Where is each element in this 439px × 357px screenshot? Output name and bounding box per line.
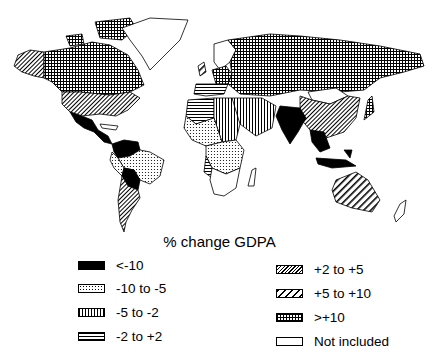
region-australia bbox=[332, 172, 380, 212]
legend-item-minus2-to-plus2: -2 to +2 bbox=[78, 329, 162, 343]
legend-item-lt-minus10: <-10 bbox=[78, 258, 143, 272]
region-new-zealand bbox=[394, 200, 406, 222]
swatch-solid-black bbox=[78, 261, 105, 270]
swatch-blank bbox=[276, 337, 303, 346]
region-russia bbox=[228, 34, 424, 96]
swatch-wide-diagonal bbox=[276, 289, 303, 298]
region-usa bbox=[62, 92, 140, 116]
world-map bbox=[0, 0, 439, 240]
swatch-fine-diagonal bbox=[276, 265, 303, 274]
swatch-horizontal-lines bbox=[78, 332, 105, 341]
legend-item-plus5-to-plus10: +5 to +10 bbox=[276, 286, 371, 300]
region-indonesia bbox=[316, 158, 356, 168]
legend-item-gt-plus10: >+10 bbox=[276, 310, 345, 324]
legend-title: % change GDPA bbox=[0, 233, 439, 250]
region-canada bbox=[44, 42, 144, 95]
swatch-vertical-lines bbox=[78, 308, 105, 317]
legend-item-minus10-to-minus5: -10 to -5 bbox=[78, 281, 166, 295]
legend-item-plus2-to-plus5: +2 to +5 bbox=[276, 262, 364, 276]
region-south-europe bbox=[194, 84, 228, 96]
legend-item-minus5-to-minus2: -5 to -2 bbox=[78, 305, 159, 319]
legend-item-not-included: Not included bbox=[276, 334, 389, 348]
region-india bbox=[276, 106, 306, 144]
swatch-dots bbox=[78, 284, 105, 293]
swatch-crosshatch bbox=[276, 313, 303, 322]
region-alaska bbox=[14, 50, 44, 78]
